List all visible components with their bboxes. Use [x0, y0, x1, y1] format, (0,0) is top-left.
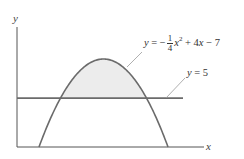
fraction-denominator: 4 — [167, 44, 174, 53]
eq-equals: = — [151, 37, 157, 48]
y-axis-label: y — [13, 13, 18, 24]
line-eq-lhs: y — [187, 67, 192, 78]
line-label-leader — [166, 78, 185, 98]
parabola-equation-label: y = −14x2 + 4x − 7 — [144, 34, 220, 53]
eq-exponent: 2 — [179, 35, 183, 43]
eq-lhs: y — [144, 37, 149, 48]
x-axis-label: x — [206, 141, 211, 152]
eq-var-2: x — [199, 37, 204, 48]
eq-minus: − — [160, 37, 166, 48]
fraction: 14 — [167, 34, 174, 53]
eq-constant: − 7 — [206, 37, 220, 48]
parabola-label-leader — [127, 52, 142, 67]
graph-figure — [0, 0, 244, 159]
line-equation-label: y = 5 — [187, 68, 208, 79]
eq-plus-term: + 4 — [185, 37, 199, 48]
line-eq-rhs: = 5 — [194, 67, 208, 78]
